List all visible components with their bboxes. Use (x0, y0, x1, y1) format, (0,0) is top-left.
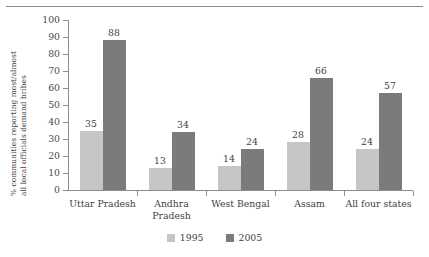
y-tick-label: 20 (36, 150, 60, 161)
x-tick-mark (206, 191, 207, 196)
bar-1995-andhra-pradesh (149, 168, 172, 190)
y-axis-title-line-2: all local officials demand bribes (19, 75, 28, 196)
y-axis-title: % communities reporting most/almost all … (0, 0, 30, 200)
bar-1995-all-four-states (356, 149, 379, 190)
y-tick-label: 40 (36, 116, 60, 127)
category-label-line: Andhra (137, 198, 206, 210)
bar-value-label: 35 (76, 118, 106, 129)
x-tick-mark (137, 191, 138, 196)
legend-swatch-1995 (167, 234, 175, 242)
category-label-line: All four states (344, 198, 413, 210)
y-tick-label: 90 (36, 31, 60, 42)
y-tick-label: 50 (36, 99, 60, 110)
bar-2005-all-four-states (379, 93, 402, 190)
bar-value-label: 24 (352, 136, 382, 147)
plot-area: 35881334142428662457 (68, 20, 413, 190)
y-tick-label: 10 (36, 167, 60, 178)
legend-item-1995: 1995 (167, 232, 204, 243)
legend-swatch-2005 (226, 234, 234, 242)
category-label: West Bengal (206, 198, 275, 210)
bar-value-label: 88 (99, 27, 129, 38)
bar-value-label: 66 (306, 65, 336, 76)
y-tick-label-text: 50 (36, 99, 60, 110)
bar-2005-andhra-pradesh (172, 132, 195, 190)
bar-value-label: 34 (168, 119, 198, 130)
legend-label-1995: 1995 (180, 232, 204, 243)
bar-value-label: 28 (283, 129, 313, 140)
y-tick-label: 0 (36, 184, 60, 195)
y-tick-label-text: 40 (36, 116, 60, 127)
y-tick-label: 80 (36, 48, 60, 59)
y-tick-label-text: 20 (36, 150, 60, 161)
y-tick-label-text: 30 (36, 133, 60, 144)
x-axis-line (68, 190, 413, 191)
y-axis-title-line-1: % communities reporting most/almost (9, 51, 18, 196)
bar-chart-figure: % communities reporting most/almost all … (0, 0, 429, 257)
y-tick-label: 70 (36, 65, 60, 76)
legend-label-2005: 2005 (239, 232, 263, 243)
y-tick-label-text: 100 (36, 14, 60, 25)
y-tick-label: 100 (36, 14, 60, 25)
category-label: Uttar Pradesh (68, 198, 137, 210)
y-tick-label-text: 60 (36, 82, 60, 93)
category-label-line: Pradesh (137, 210, 206, 222)
bar-1995-assam (287, 142, 310, 190)
bar-1995-west-bengal (218, 166, 241, 190)
y-tick-mark (63, 190, 68, 191)
bar-value-label: 24 (237, 136, 267, 147)
category-label: All four states (344, 198, 413, 210)
bar-2005-uttar-pradesh (103, 40, 126, 190)
top-divider-rule (6, 6, 423, 7)
y-tick-label-text: 70 (36, 65, 60, 76)
x-tick-mark (413, 191, 414, 196)
chart-legend: 1995 2005 (0, 232, 429, 243)
bar-value-label: 57 (375, 80, 405, 91)
category-label-line: West Bengal (206, 198, 275, 210)
category-label-line: Uttar Pradesh (68, 198, 137, 210)
category-label-line: Assam (275, 198, 344, 210)
bar-1995-uttar-pradesh (80, 131, 103, 191)
bar-2005-assam (310, 78, 333, 190)
bar-value-label: 13 (145, 155, 175, 166)
y-tick-label: 30 (36, 133, 60, 144)
y-tick-label-text: 80 (36, 48, 60, 59)
y-tick-label: 60 (36, 82, 60, 93)
y-tick-label-text: 10 (36, 167, 60, 178)
bar-2005-west-bengal (241, 149, 264, 190)
x-tick-mark (275, 191, 276, 196)
x-tick-mark (344, 191, 345, 196)
category-label: Assam (275, 198, 344, 210)
category-label: AndhraPradesh (137, 198, 206, 221)
y-tick-label-text: 90 (36, 31, 60, 42)
y-tick-label-text: 0 (36, 184, 60, 195)
legend-item-2005: 2005 (226, 232, 263, 243)
bar-value-label: 14 (214, 153, 244, 164)
